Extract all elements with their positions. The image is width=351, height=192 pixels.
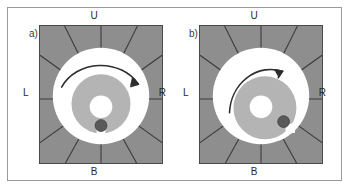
figure-frame: a) bbox=[7, 7, 342, 181]
panel-b: b) bbox=[174, 8, 334, 180]
center-hole bbox=[250, 95, 273, 118]
panel-a-field bbox=[39, 25, 163, 164]
direction-label-right: R bbox=[319, 88, 326, 98]
center-hole bbox=[90, 95, 113, 118]
marker-dot bbox=[278, 116, 290, 128]
direction-label-bottom: B bbox=[14, 167, 174, 177]
direction-label-left: L bbox=[183, 88, 189, 98]
panel-a-label: a) bbox=[29, 28, 38, 39]
direction-label-right: R bbox=[159, 88, 166, 98]
marker-dot bbox=[95, 120, 107, 132]
panel-b-diagram bbox=[200, 26, 322, 163]
direction-label-up: U bbox=[14, 11, 174, 21]
panel-b-field bbox=[199, 25, 323, 164]
panel-a: a) bbox=[14, 8, 174, 180]
panel-a-diagram bbox=[40, 26, 162, 163]
panel-b-label: b) bbox=[189, 28, 198, 39]
direction-label-up: U bbox=[174, 11, 334, 21]
direction-label-bottom: B bbox=[174, 167, 334, 177]
direction-label-left: L bbox=[23, 88, 29, 98]
